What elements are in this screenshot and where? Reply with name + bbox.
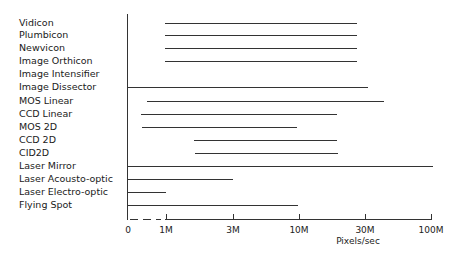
range-bar bbox=[165, 61, 357, 62]
y-axis-line bbox=[127, 14, 128, 220]
x-axis-tick bbox=[299, 214, 300, 220]
category-label: Laser Electro-optic bbox=[19, 186, 108, 197]
range-bar bbox=[141, 114, 337, 115]
category-label: Flying Spot bbox=[19, 199, 72, 210]
x-axis-title: Pixels/sec bbox=[336, 236, 380, 246]
category-label: CID2D bbox=[19, 147, 49, 158]
range-bar bbox=[127, 192, 166, 193]
category-label: Plumbicon bbox=[19, 29, 68, 40]
x-axis-dash bbox=[130, 219, 138, 220]
range-bar bbox=[165, 48, 357, 49]
range-bar bbox=[194, 140, 337, 141]
x-tick-label: 1M bbox=[159, 225, 173, 235]
range-bar bbox=[165, 35, 357, 36]
x-axis-tick bbox=[365, 214, 366, 220]
x-tick-label: 3M bbox=[226, 225, 240, 235]
range-bar bbox=[127, 179, 233, 180]
range-bar bbox=[142, 127, 297, 128]
category-label: Image Dissector bbox=[19, 81, 96, 92]
category-label: MOS 2D bbox=[19, 121, 57, 132]
category-label: Laser Acousto-optic bbox=[19, 173, 113, 184]
x-tick-label: 100M bbox=[419, 225, 444, 235]
x-axis-tick bbox=[233, 214, 234, 220]
category-label: Newvicon bbox=[19, 42, 65, 53]
range-bar bbox=[195, 153, 338, 154]
category-label: CCD Linear bbox=[19, 108, 72, 119]
category-label: Image Intensifier bbox=[19, 68, 100, 79]
range-bar bbox=[127, 87, 368, 88]
x-tick-label: 10M bbox=[289, 225, 308, 235]
x-axis-dash bbox=[143, 219, 151, 220]
category-label: Laser Mirror bbox=[19, 160, 76, 171]
x-tick-label: 30M bbox=[355, 225, 374, 235]
category-label: CCD 2D bbox=[19, 134, 56, 145]
x-axis-dash bbox=[156, 219, 161, 220]
category-label: MOS Linear bbox=[19, 95, 73, 106]
range-bar bbox=[165, 23, 357, 24]
x-tick-label: 0 bbox=[125, 225, 131, 235]
range-bar bbox=[127, 166, 433, 167]
x-axis-tick bbox=[166, 214, 167, 220]
range-bar bbox=[147, 101, 384, 102]
category-label: Vidicon bbox=[19, 17, 54, 28]
category-label: Image Orthicon bbox=[19, 55, 93, 66]
x-axis-tick bbox=[431, 214, 432, 220]
range-bar bbox=[127, 205, 298, 206]
